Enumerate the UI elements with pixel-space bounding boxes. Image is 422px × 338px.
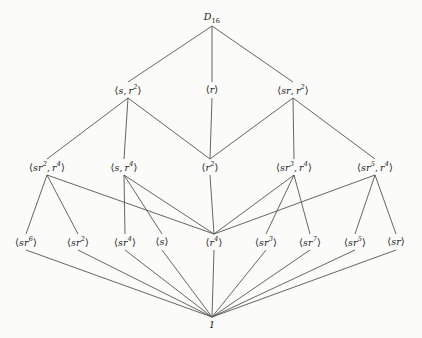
lattice-node-s: ⟨s⟩ — [154, 236, 170, 248]
lattice-node-r2: ⟨r2⟩ — [200, 160, 220, 173]
lattice-edge — [125, 250, 212, 317]
subgroup-lattice-diagram: D16⟨s, r2⟩⟨r⟩⟨sr, r2⟩⟨sr2, r4⟩⟨s, r4⟩⟨r2… — [0, 0, 422, 338]
lattice-node-D16: D16 — [202, 11, 221, 25]
lattice-node-r: ⟨r⟩ — [204, 84, 220, 96]
lattice-edge — [355, 175, 375, 234]
lattice-node-sr5_r4: ⟨sr5, r4⟩ — [355, 160, 394, 173]
lattice-edge — [128, 26, 212, 82]
lattice-edge — [47, 98, 128, 159]
lattice-node-one: 1 — [207, 319, 216, 331]
lattice-edge — [294, 175, 310, 234]
lattice-node-s_r2: ⟨s, r2⟩ — [113, 83, 143, 96]
lattice-node-sr_r2: ⟨sr, r2⟩ — [276, 83, 311, 96]
lattice-edge — [124, 98, 128, 159]
lattice-edge — [214, 175, 375, 234]
lattice-node-r4: ⟨r4⟩ — [204, 235, 224, 248]
lattice-node-sr5: ⟨sr5⟩ — [343, 235, 368, 248]
lattice-node-sr2: ⟨sr2⟩ — [66, 235, 91, 248]
lattice-edge — [212, 250, 396, 317]
lattice-edge — [293, 98, 294, 159]
lattice-edge — [128, 98, 210, 159]
lattice-edge — [293, 98, 375, 159]
lattice-edge — [210, 98, 293, 159]
lattice-edge — [212, 250, 355, 317]
lattice-edge — [162, 250, 212, 317]
lattice-node-sr3: ⟨sr3⟩ — [254, 235, 279, 248]
lattice-edge — [210, 98, 212, 159]
lattice-edge — [214, 175, 294, 234]
lattice-node-sr: ⟨sr⟩ — [386, 236, 407, 248]
lattice-node-sr3_r4: ⟨sr3, r4⟩ — [274, 160, 313, 173]
lattice-edge — [375, 175, 396, 234]
lattice-node-sr4: ⟨sr4⟩ — [113, 235, 138, 248]
lattice-edge — [26, 250, 212, 317]
lattice-edge — [124, 175, 214, 234]
lattice-node-sr2_r4: ⟨sr2, r4⟩ — [27, 160, 66, 173]
lattice-edge — [26, 175, 47, 234]
lattice-edge — [212, 250, 214, 317]
lattice-edge — [78, 250, 212, 317]
lattice-node-sr7: ⟨sr7⟩ — [298, 235, 323, 248]
lattice-edge — [266, 175, 294, 234]
lattice-node-s_r4: ⟨s, r4⟩ — [109, 160, 139, 173]
lattice-edge — [210, 175, 214, 234]
lattice-edge — [212, 26, 293, 82]
lattice-edge — [47, 175, 214, 234]
lattice-node-sr6: ⟨sr6⟩ — [14, 235, 39, 248]
lattice-edge — [124, 175, 125, 234]
lattice-edge — [212, 250, 310, 317]
